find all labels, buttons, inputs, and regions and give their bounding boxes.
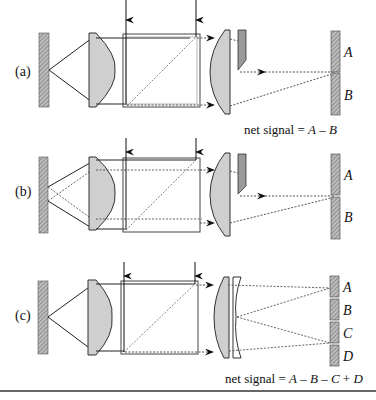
detector-segment-c xyxy=(330,322,339,343)
splitter-diagonal xyxy=(124,284,195,352)
panel-c: (c) A B C D net signal = A – B – C + D xyxy=(15,262,363,386)
collimating-lens xyxy=(88,280,112,355)
focusing-lens xyxy=(210,30,230,114)
focusing-lens xyxy=(210,153,230,236)
sample-surface xyxy=(39,33,49,107)
sample-surface xyxy=(38,281,48,354)
light-ray xyxy=(48,285,92,350)
detector-segment-a xyxy=(331,31,340,72)
detector-segment-b xyxy=(331,73,340,115)
segment-label: D xyxy=(342,349,353,364)
beam-splitter xyxy=(123,34,200,107)
panel-label-a: (a) xyxy=(15,64,31,80)
collimating-lens xyxy=(89,33,115,107)
segment-label: A xyxy=(343,45,353,60)
segment-label: B xyxy=(344,210,353,225)
detector-segment-a xyxy=(330,276,339,297)
cylindrical-lens xyxy=(233,277,241,358)
segment-label: A xyxy=(342,280,352,295)
segment-label: B xyxy=(343,303,352,318)
panel-label-c: (c) xyxy=(15,308,31,324)
light-ray xyxy=(48,170,92,219)
optical-diagram: (a) A B net signal = A – B xyxy=(0,0,376,400)
net-signal-c: net signal = A – B – C + D xyxy=(225,371,363,386)
detector-segment-b xyxy=(330,299,339,320)
knife-edge xyxy=(238,30,246,70)
splitter-diagonal xyxy=(127,37,196,106)
output-ray xyxy=(228,285,330,351)
panel-a: (a) A B net signal = A – B xyxy=(15,0,353,137)
light-ray xyxy=(49,38,92,102)
detector-segment-a xyxy=(331,154,340,195)
panel-label-b: (b) xyxy=(15,184,32,200)
detector-segment-b xyxy=(331,197,340,239)
net-signal-a: net signal = A – B xyxy=(244,122,337,137)
panel-b: (b) A B xyxy=(15,138,353,239)
segment-label: B xyxy=(344,88,353,103)
splitter-diagonal xyxy=(126,160,196,230)
segment-label: C xyxy=(343,326,353,341)
focusing-lens xyxy=(214,277,229,358)
detector-segment-d xyxy=(330,345,339,366)
beam-splitter-inner xyxy=(126,37,197,104)
light-ray xyxy=(48,160,95,230)
sample-surface xyxy=(39,157,48,233)
knife-edge xyxy=(238,154,246,194)
segment-label: A xyxy=(343,168,353,183)
